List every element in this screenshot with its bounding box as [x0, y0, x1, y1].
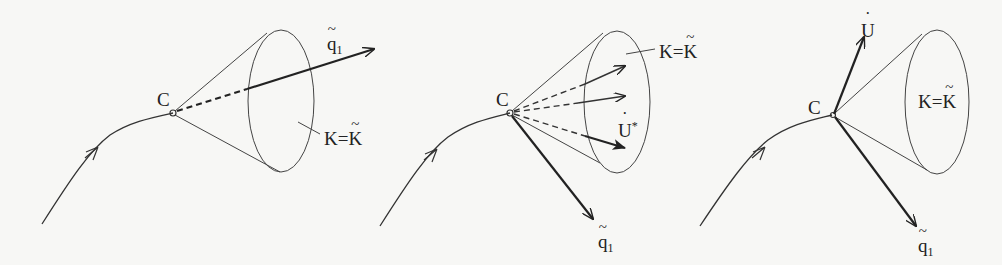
cone-label-rhs: K: [348, 129, 362, 148]
cone-upper-edge: [175, 33, 267, 111]
cone-lower-edge: [175, 115, 280, 172]
point-c-label: C: [157, 90, 170, 109]
q1-vector-arrow: [512, 116, 593, 219]
q-base: q: [918, 236, 928, 255]
panel-2: [380, 31, 655, 226]
q1-vector-label: q1: [598, 232, 614, 254]
q1-vector-arrow: [247, 49, 374, 89]
u-base: U: [861, 21, 875, 40]
cone-label-lhs: K: [918, 91, 932, 112]
cone-upper-edge: [835, 34, 922, 113]
q1-vector-label: q1: [918, 236, 934, 258]
u-star-label: U*: [618, 120, 638, 140]
trajectory-curve: [380, 113, 510, 226]
q-subscript: 1: [337, 43, 343, 57]
cone-vector-arrow: [578, 96, 625, 103]
q1-vector-label: q1: [327, 34, 343, 56]
point-c-label: C: [496, 90, 509, 109]
figure-drawing: [0, 0, 1002, 265]
cone-label-lhs: K: [324, 128, 338, 149]
cone-vector-arrow: [585, 66, 625, 84]
cone-label: K=K: [324, 129, 362, 148]
cone-diagram-figure: C q1 K=K C K=K U* q1 C U K=K q1: [0, 0, 1002, 265]
q-base: q: [598, 232, 608, 251]
q-base: q: [327, 34, 337, 53]
cone-base-ellipse: [248, 30, 314, 172]
u-superscript: *: [632, 119, 638, 133]
trajectory-curve: [42, 113, 173, 224]
cone-label-eq: =: [673, 41, 684, 62]
q1-vector-arrow: [835, 117, 916, 226]
point-c-label: C: [808, 98, 821, 117]
cone-label-leader: [298, 122, 320, 134]
q-subscript: 1: [608, 241, 614, 255]
q-subscript: 1: [928, 245, 934, 259]
cone-lower-edge: [835, 117, 927, 170]
cone-label: K=K: [918, 92, 956, 111]
u-dot-vector-arrow: [834, 37, 864, 114]
trajectory-curve: [700, 115, 832, 226]
cone-base-ellipse: [584, 31, 650, 173]
cone-label-lhs: K: [659, 41, 673, 62]
cone-label: K=K: [659, 42, 697, 61]
cone-label-rhs: K: [683, 42, 697, 61]
panel-3: [700, 30, 969, 226]
cone-lower-edge: [512, 115, 600, 163]
u-dot-label: U: [861, 21, 875, 40]
cone-label-eq: =: [932, 91, 943, 112]
cone-label-rhs: K: [942, 92, 956, 111]
cone-upper-edge: [512, 33, 603, 111]
panel-1: [42, 30, 374, 224]
u-base: U: [618, 121, 632, 140]
cone-label-eq: =: [338, 128, 349, 149]
